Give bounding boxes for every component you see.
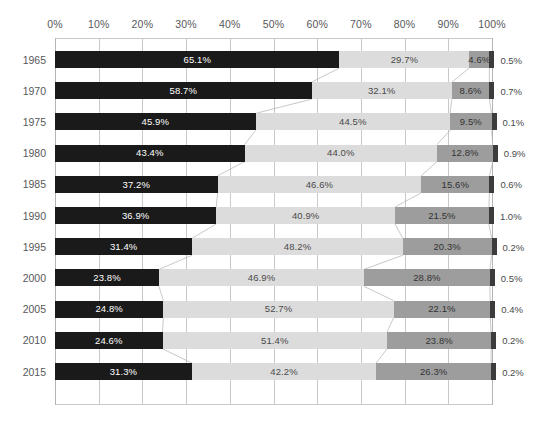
connector-line	[364, 255, 403, 269]
bar-segment-series-1: 24.8%	[55, 301, 163, 318]
connector-line	[256, 99, 312, 113]
x-axis-tick-50: 50%	[263, 18, 285, 30]
bar-row: 197545.9%44.5%9.5%0.1%0.1%	[55, 113, 492, 130]
connector-line	[376, 349, 387, 363]
stacked-bar: 24.6%51.4%23.8%0.2%0.2%	[55, 332, 492, 349]
bar-row: 196565.1%29.7%4.6%0.5%0.5%	[55, 51, 492, 68]
bar-segment-value-label: 12.8%	[451, 148, 478, 158]
bar-segment-series-1: 45.9%	[55, 113, 256, 130]
bar-segment-series-4: 0.5%0.5%	[489, 51, 494, 68]
bar-segment-series-1: 36.9%	[55, 207, 216, 224]
connector-line	[421, 162, 437, 176]
bar-segment-value-label: 29.7%	[391, 55, 418, 65]
bar-segment-series-3: 4.6%	[469, 51, 489, 68]
bar-segment-series-4: 0.7%0.7%	[489, 82, 494, 99]
stacked-bar: 31.4%48.2%20.3%0.2%0.2%	[55, 238, 492, 255]
bar-segment-series-3: 20.3%	[403, 238, 492, 255]
bar-segment-series-2: 32.1%	[312, 82, 452, 99]
bar-segment-series-2: 29.7%	[339, 51, 469, 68]
bar-segment-value-label: 28.8%	[413, 273, 440, 283]
bar-segment-outside-label: 0.2%	[502, 366, 524, 377]
row-category-label: 2015	[23, 366, 46, 378]
bar-segment-series-3: 9.5%	[450, 113, 492, 130]
bar-segment-series-4: 0.2%0.2%	[492, 238, 497, 255]
stacked-bar-chart: 0%10%20%30%40%50%60%70%80%90%100% 196565…	[0, 0, 544, 428]
bar-segment-outside-label: 1.0%	[500, 210, 522, 221]
bar-segment-series-4: 0.9%0.9%	[493, 145, 498, 162]
stacked-bar: 31.3%42.2%26.3%0.2%0.2%	[55, 363, 492, 380]
bar-segment-series-2: 46.9%	[159, 269, 364, 286]
row-category-label: 1990	[23, 210, 46, 222]
bar-segment-series-3: 23.8%	[387, 332, 491, 349]
bar-segment-outside-label: 0.1%	[503, 116, 525, 127]
bar-segment-value-label: 22.1%	[428, 304, 455, 314]
bar-row: 200023.8%46.9%28.8%0.5%0.5%	[55, 269, 492, 286]
bar-segment-outside-label: 0.6%	[500, 179, 522, 190]
bar-segment-outside-label: 0.2%	[502, 335, 524, 346]
bar-segment-series-2: 42.2%	[192, 363, 376, 380]
x-axis-tick-60: 60%	[306, 18, 328, 30]
bar-segment-value-label: 52.7%	[265, 304, 292, 314]
bar-segment-series-1: 65.1%	[55, 51, 339, 68]
bar-segment-series-1: 37.2%	[55, 176, 218, 193]
bar-segment-series-4: 0.6%0.6%	[489, 176, 494, 193]
bar-segment-series-2: 44.5%	[256, 113, 450, 130]
bar-segment-value-label: 9.5%	[460, 117, 482, 127]
bar-segment-series-1: 31.4%	[55, 238, 192, 255]
row-category-label: 1995	[23, 241, 46, 253]
bar-segment-value-label: 44.0%	[327, 148, 354, 158]
bar-segment-series-3: 12.8%	[437, 145, 493, 162]
connector-line	[245, 130, 256, 144]
bar-segment-value-label: 40.9%	[292, 211, 319, 221]
stacked-bar: 23.8%46.9%28.8%0.5%0.5%	[55, 269, 492, 286]
connector-line	[387, 318, 394, 332]
bar-segment-value-label: 46.6%	[306, 180, 333, 190]
stacked-bar: 24.8%52.7%22.1%0.4%0.4%	[55, 301, 492, 318]
stacked-bar: 45.9%44.5%9.5%0.1%0.1%	[55, 113, 492, 130]
connector-line	[312, 68, 340, 82]
row-category-label: 1965	[23, 54, 46, 66]
connector-line	[163, 318, 164, 332]
bar-segment-value-label: 26.3%	[420, 367, 447, 377]
bar-segment-series-4: 0.5%0.5%	[490, 269, 495, 286]
bar-segment-series-1: 58.7%	[55, 82, 312, 99]
bar-segment-value-label: 31.4%	[110, 242, 137, 252]
bar-segment-series-2: 51.4%	[163, 332, 388, 349]
connector-line	[450, 99, 452, 113]
bar-segment-series-2: 40.9%	[216, 207, 395, 224]
bar-segment-value-label: 36.9%	[122, 211, 149, 221]
x-axis-tick-80: 80%	[394, 18, 416, 30]
bar-segment-value-label: 4.6%	[468, 55, 490, 65]
bar-segment-series-3: 15.6%	[421, 176, 489, 193]
row-category-label: 2000	[23, 272, 46, 284]
bar-segment-outside-label: 0.5%	[501, 272, 523, 283]
bar-row: 201531.3%42.2%26.3%0.2%0.2%	[55, 363, 492, 380]
stacked-bar: 36.9%40.9%21.5%1.0%1.0%	[55, 207, 492, 224]
row-category-label: 1980	[23, 147, 46, 159]
bar-segment-value-label: 65.1%	[184, 55, 211, 65]
bar-segment-value-label: 23.8%	[425, 336, 452, 346]
stacked-bar: 37.2%46.6%15.6%0.6%0.6%	[55, 176, 492, 193]
bar-segment-outside-label: 0.5%	[500, 54, 522, 65]
bar-segment-value-label: 15.6%	[442, 180, 469, 190]
connector-line	[218, 162, 245, 176]
bar-segment-outside-label: 0.9%	[504, 148, 526, 159]
connector-line	[395, 193, 421, 207]
bar-segment-value-label: 20.3%	[433, 242, 460, 252]
stacked-bar: 65.1%29.7%4.6%0.5%0.5%	[55, 51, 492, 68]
bar-row: 197058.7%32.1%8.6%0.7%0.7%	[55, 82, 492, 99]
bar-segment-series-4: 1.0%1.0%	[489, 207, 494, 224]
connector-line	[395, 224, 403, 238]
bar-segment-value-label: 44.5%	[339, 117, 366, 127]
bar-segment-series-2: 52.7%	[163, 301, 393, 318]
x-axis-tick-0: 0%	[47, 18, 63, 30]
bar-segment-series-1: 23.8%	[55, 269, 159, 286]
x-axis-tick-100: 100%	[478, 18, 506, 30]
bar-segment-value-label: 31.3%	[110, 367, 137, 377]
x-axis-tick-30: 30%	[175, 18, 197, 30]
bar-segment-series-2: 44.0%	[245, 145, 437, 162]
bar-segment-outside-label: 0.2%	[503, 241, 525, 252]
bar-row: 198043.4%44.0%12.8%0.9%0.9%	[55, 145, 492, 162]
connector-line	[192, 224, 216, 238]
bar-segment-value-label: 32.1%	[368, 86, 395, 96]
